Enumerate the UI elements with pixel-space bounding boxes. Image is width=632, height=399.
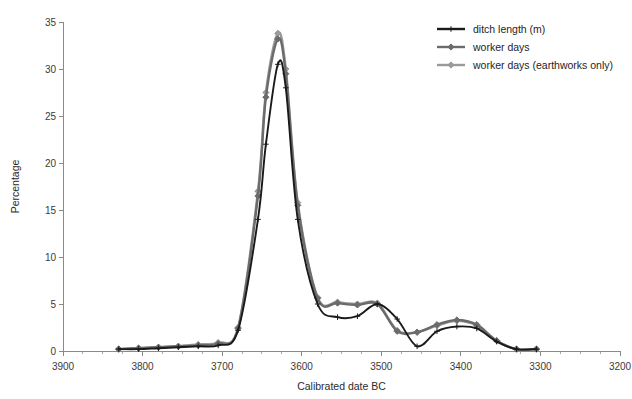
series-3 — [116, 30, 540, 352]
y-tick-label: 25 — [45, 111, 57, 122]
y-tick-label: 35 — [45, 17, 57, 28]
y-tick-label: 10 — [45, 252, 57, 263]
legend-label: worker days (earthworks only) — [472, 59, 613, 71]
legend-item[interactable] — [437, 62, 465, 68]
series-line — [119, 38, 537, 350]
x-tick-label: 3800 — [131, 361, 154, 372]
x-tick-label: 3600 — [291, 361, 314, 372]
x-tick-label: 3300 — [529, 361, 552, 372]
y-axis-ticks: 05101520253035 — [45, 17, 63, 357]
data-point-marker — [263, 94, 269, 100]
data-point-marker — [448, 44, 454, 50]
chart-figure: 05101520253035 3900380037003600350034003… — [0, 0, 632, 399]
legend-item[interactable] — [437, 44, 465, 50]
y-axis-title: Percentage — [9, 159, 21, 213]
y-tick-label: 30 — [45, 64, 57, 75]
x-axis-title: Calibrated date BC — [297, 380, 386, 392]
data-point-marker — [263, 141, 269, 147]
y-tick-label: 0 — [50, 346, 56, 357]
series-layer — [116, 30, 540, 352]
series-1 — [116, 60, 539, 352]
legend-label: ditch length (m) — [473, 23, 545, 35]
x-tick-label: 3200 — [609, 361, 632, 372]
x-tick-label: 3500 — [370, 361, 393, 372]
x-tick-label: 3700 — [211, 361, 234, 372]
y-tick-label: 20 — [45, 158, 57, 169]
legend-item[interactable] — [437, 26, 465, 32]
x-tick-label: 3900 — [52, 361, 75, 372]
data-point-marker — [448, 62, 454, 68]
data-point-marker — [335, 314, 341, 320]
y-tick-label: 5 — [50, 299, 56, 310]
legend-label: worker days — [472, 41, 530, 53]
data-point-marker — [414, 329, 420, 335]
series-line — [119, 33, 537, 350]
y-tick-label: 15 — [45, 205, 57, 216]
data-point-marker — [448, 26, 454, 32]
data-point-marker — [275, 62, 281, 68]
x-axis-ticks: 39003800370036003500340033003200 — [52, 351, 632, 372]
line-chart: 05101520253035 3900380037003600350034003… — [0, 0, 632, 399]
x-tick-label: 3400 — [450, 361, 473, 372]
data-point-marker — [454, 324, 460, 330]
chart-legend: ditch length (m)worker daysworker days (… — [437, 23, 613, 71]
